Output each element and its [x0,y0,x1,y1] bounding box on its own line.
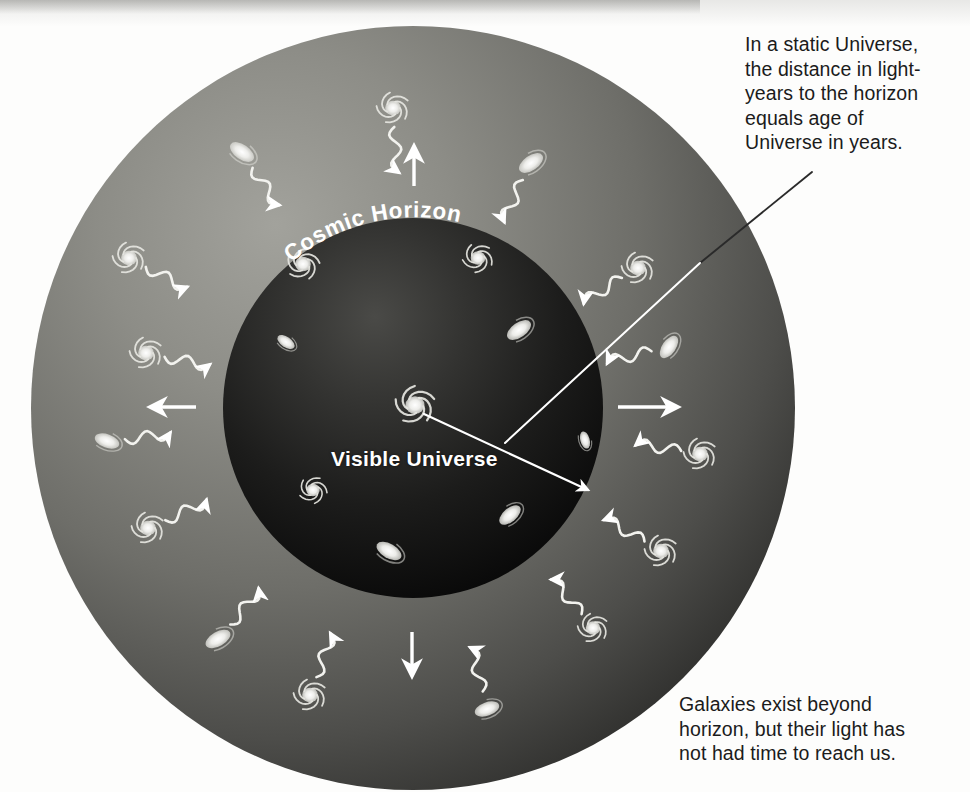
diagram-stage: Cosmic Horizon In a static Universe, the… [0,0,970,792]
callout-static-universe: In a static Universe, the distance in li… [745,32,970,155]
callout-galaxies-beyond-horizon: Galaxies exist beyond horizon, but their… [679,692,969,766]
label-visible-universe: Visible Universe [331,447,498,471]
